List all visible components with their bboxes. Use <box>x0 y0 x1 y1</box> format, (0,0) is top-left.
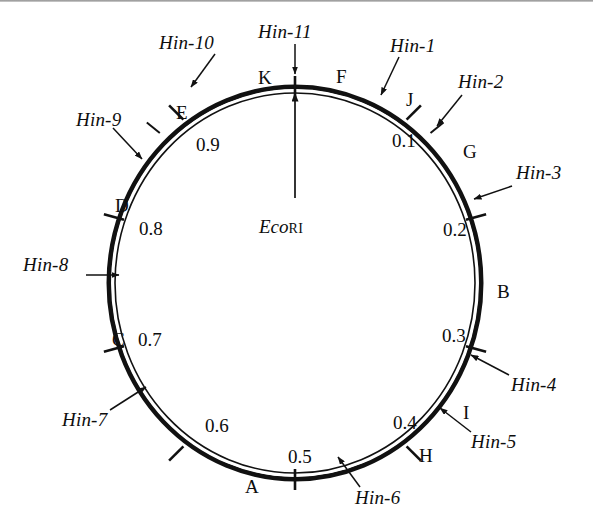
fragment-label-D: D <box>115 196 129 215</box>
fragment-label-I: I <box>463 403 469 422</box>
coordinate-label-0-1: 0.1 <box>392 131 416 150</box>
boundary-E-D <box>147 123 160 134</box>
coordinate-label-0-5: 0.5 <box>288 447 312 466</box>
site-label-hin-2: Hin-2 <box>458 72 503 91</box>
site-label-hin-5: Hin-5 <box>471 432 516 451</box>
fragment-label-J: J <box>406 90 413 109</box>
fragment-label-K: K <box>258 68 272 87</box>
fragment-label-C: C <box>112 330 125 349</box>
fragment-label-F: F <box>336 67 347 86</box>
coordinate-label-0-9: 0.9 <box>196 135 220 154</box>
site-label-hin-9: Hin-9 <box>76 110 121 129</box>
coordinate-label-0-3: 0.3 <box>442 326 466 345</box>
site-label-hin-11: Hin-11 <box>258 22 312 41</box>
coordinate-label-0-2: 0.2 <box>443 220 467 239</box>
fragment-label-H: H <box>419 446 433 465</box>
leader-hin-1 <box>381 57 399 95</box>
site-label-hin-3: Hin-3 <box>516 163 561 182</box>
site-label-hin-8: Hin-8 <box>23 255 68 274</box>
site-label-hin-1: Hin-1 <box>390 36 435 55</box>
coordinate-label-0-8: 0.8 <box>139 219 163 238</box>
boundary-J-G <box>431 123 444 134</box>
ecori-label-suffix: RI <box>289 221 304 236</box>
site-label-hin-10: Hin-10 <box>159 33 214 52</box>
site-leader-arrows <box>86 44 512 487</box>
site-label-hin-4: Hin-4 <box>511 375 556 394</box>
site-label-hin-7: Hin-7 <box>62 410 107 429</box>
leader-hin-3 <box>474 186 512 199</box>
coordinate-label-0-4: 0.4 <box>393 413 417 432</box>
figure-root: F J G B I H A C D E K 0.1 0.2 0.3 0.4 0.… <box>0 0 593 529</box>
leader-hin-9 <box>113 128 142 159</box>
leader-hin-2 <box>437 95 462 126</box>
fragment-label-A: A <box>245 477 259 496</box>
coordinate-label-0-6: 0.6 <box>205 416 229 435</box>
leader-hin-7 <box>110 387 146 410</box>
site-label-hin-6: Hin-6 <box>355 488 400 507</box>
leader-hin-10 <box>191 54 215 87</box>
coordinate-label-0-7: 0.7 <box>138 330 162 349</box>
tick-0-6 <box>169 446 183 460</box>
ecori-label: EcoRI <box>259 217 303 236</box>
leader-hin-4 <box>471 355 509 375</box>
ecori-label-genus: Eco <box>259 216 289 237</box>
fragment-label-G: G <box>463 142 477 161</box>
fragment-label-E: E <box>176 103 188 122</box>
fragment-label-B: B <box>497 282 510 301</box>
